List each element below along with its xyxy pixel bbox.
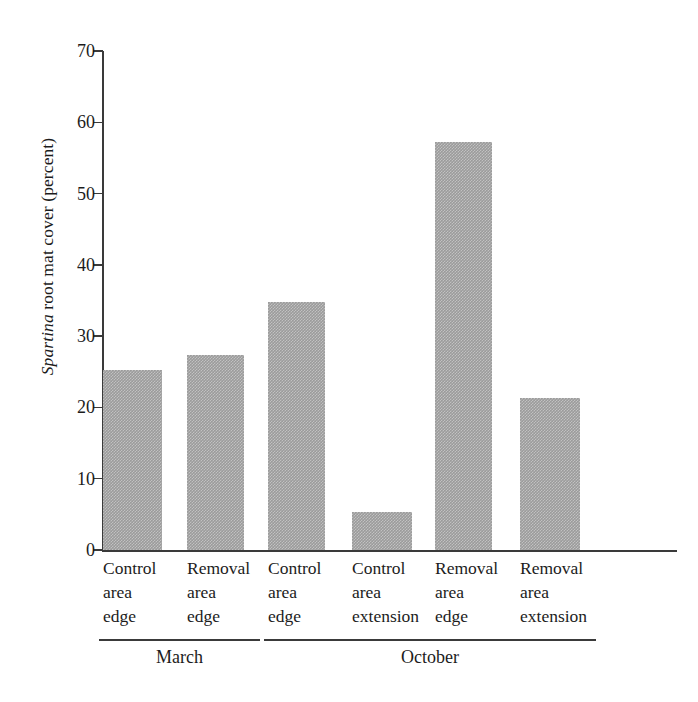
y-tick-label: 10 bbox=[77, 470, 95, 488]
x-category-line: Removal bbox=[435, 556, 498, 580]
group-label: March bbox=[99, 644, 260, 670]
x-category-label: Controlareaedge bbox=[268, 556, 321, 628]
x-category-line: edge bbox=[187, 604, 250, 628]
bar-chart-figure: Spartina root mat cover (percent) 010203… bbox=[0, 0, 698, 702]
plot-area: 010203040506070 bbox=[102, 51, 684, 550]
x-category-line: edge bbox=[103, 604, 156, 628]
group-label: October bbox=[264, 644, 596, 670]
x-category-line: Removal bbox=[187, 556, 250, 580]
group-rule bbox=[99, 639, 260, 641]
bar bbox=[187, 355, 244, 550]
x-category-line: edge bbox=[268, 604, 321, 628]
x-category-line: area bbox=[103, 580, 156, 604]
bar bbox=[520, 398, 580, 550]
x-category-line: extension bbox=[352, 604, 419, 628]
x-axis-category-labels: ControlareaedgeRemovalareaedgeControlare… bbox=[102, 556, 684, 632]
bar-series bbox=[102, 51, 684, 550]
y-tick-label: 40 bbox=[77, 256, 95, 274]
y-tick-label: 50 bbox=[77, 185, 95, 203]
x-category-line: area bbox=[268, 580, 321, 604]
x-category-line: Control bbox=[103, 556, 156, 580]
y-tick-label: 60 bbox=[77, 113, 95, 131]
x-category-label: Removalareaedge bbox=[435, 556, 498, 628]
x-category-line: Control bbox=[352, 556, 419, 580]
y-tick-label: 20 bbox=[77, 398, 95, 416]
x-category-line: area bbox=[435, 580, 498, 604]
y-tick-label: 30 bbox=[77, 327, 95, 345]
x-category-label: Controlareaedge bbox=[103, 556, 156, 628]
bar bbox=[352, 512, 412, 550]
x-category-label: Controlareaextension bbox=[352, 556, 419, 628]
bar bbox=[268, 302, 325, 550]
y-tick-label: 0 bbox=[86, 541, 95, 559]
x-category-line: area bbox=[187, 580, 250, 604]
x-category-line: Removal bbox=[520, 556, 587, 580]
x-category-line: area bbox=[352, 580, 419, 604]
y-axis-title-italic: Spartina bbox=[37, 314, 57, 375]
x-category-line: area bbox=[520, 580, 587, 604]
x-category-line: edge bbox=[435, 604, 498, 628]
y-axis-title: Spartina root mat cover (percent) bbox=[37, 47, 58, 467]
x-category-line: extension bbox=[520, 604, 587, 628]
bar bbox=[435, 142, 492, 550]
x-category-label: Removalareaextension bbox=[520, 556, 587, 628]
group-rule bbox=[264, 639, 596, 641]
x-category-label: Removalareaedge bbox=[187, 556, 250, 628]
y-tick-label: 70 bbox=[77, 42, 95, 60]
x-category-line: Control bbox=[268, 556, 321, 580]
x-axis-line bbox=[102, 550, 677, 552]
y-axis-title-rest: root mat cover (percent) bbox=[37, 138, 57, 314]
bar bbox=[103, 370, 162, 550]
